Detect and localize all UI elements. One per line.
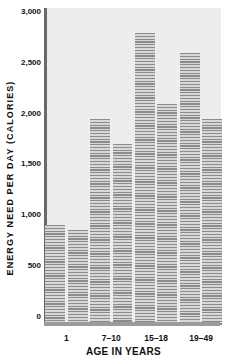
y-tick-label: 0 bbox=[4, 312, 41, 322]
y-tick-label: 3,000 bbox=[4, 7, 41, 17]
bar bbox=[135, 33, 155, 325]
bar bbox=[113, 144, 133, 325]
bar bbox=[68, 230, 88, 325]
bar bbox=[157, 104, 177, 325]
x-tick-label: 15–18 bbox=[134, 333, 178, 343]
energy-needs-bar-chart: ENERGY NEED PER DAY (CALORIES) 05001,000… bbox=[0, 0, 226, 361]
x-axis-line bbox=[44, 322, 220, 327]
x-axis-title: AGE IN YEARS bbox=[46, 346, 201, 357]
x-tick-label: 1 bbox=[44, 333, 88, 343]
y-tick-label: 1,500 bbox=[4, 159, 41, 169]
y-tick-label: 2,000 bbox=[4, 109, 41, 119]
y-tick-label: 500 bbox=[4, 261, 41, 271]
bar bbox=[180, 53, 200, 325]
y-tick-label: 2,500 bbox=[4, 58, 41, 68]
x-tick-label: 7–10 bbox=[89, 333, 133, 343]
x-tick-label: 19–49 bbox=[179, 333, 223, 343]
y-tick-label: 1,000 bbox=[4, 210, 41, 220]
bar bbox=[45, 225, 65, 325]
bar bbox=[90, 119, 110, 325]
bar bbox=[202, 119, 222, 325]
